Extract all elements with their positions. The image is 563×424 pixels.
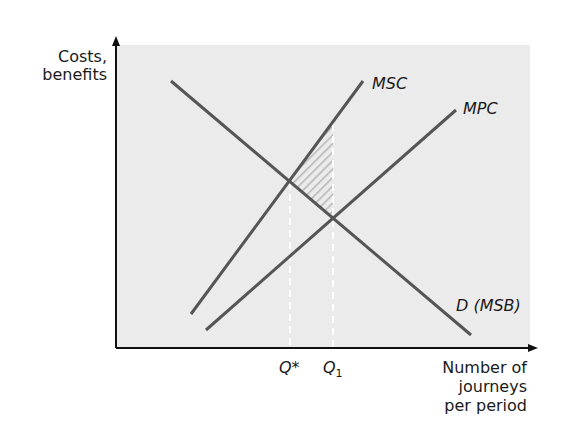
y-axis-arrow-icon [112,36,120,46]
x-axis-label-line3: per period [444,396,527,415]
q1-subscript: 1 [336,367,343,380]
y-axis-label-line2: benefits [42,65,107,84]
x-axis-label-line2: journeys [458,377,527,396]
mpc-label: MPC [463,99,498,118]
demand-label: D (MSB) [456,296,521,315]
q-star-label: Q* [279,358,300,377]
msc-label: MSC [372,74,408,93]
x-axis-label-line1: Number of [442,358,527,377]
y-axis-label-line1: Costs, [58,47,107,66]
q1-main: Q [323,358,336,377]
x-axis-arrow-icon [528,344,538,352]
q1-label: Q1 [323,358,343,380]
externality-diagram: Costs, benefits MSC MPC D (MSB) Q* Q1 Nu… [0,0,563,424]
